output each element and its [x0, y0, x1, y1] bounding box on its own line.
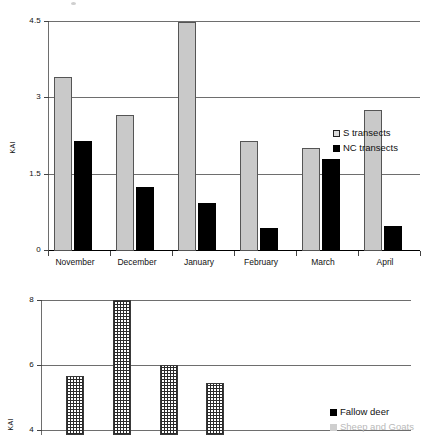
black-square-icon — [330, 409, 337, 416]
y-tick-6 — [37, 365, 42, 366]
bar-december-nc-transects — [136, 187, 154, 251]
gridline-3 — [48, 97, 420, 98]
y-tick-3 — [44, 97, 49, 98]
top-chart-y-axis — [48, 21, 49, 251]
bar-group-1-sheep-and-goats — [66, 376, 84, 435]
legend-label-fallow-deer: Fallow deer — [340, 407, 389, 417]
legend-item-s-transects: S transects — [333, 128, 398, 138]
bar-november-nc-transects — [74, 141, 92, 251]
y-tick-label-6: 6 — [10, 361, 34, 369]
y-tick-label-0: 0 — [14, 246, 41, 254]
scan-artifact-speck — [71, 2, 76, 5]
bar-group-3-sheep-and-goats — [160, 365, 178, 435]
legend-label-nc-transects: NC transects — [343, 143, 398, 153]
legend-item-fallow-deer: Fallow deer — [330, 407, 414, 417]
bar-february-s-transects — [240, 141, 258, 251]
top-chart-y-axis-title: KAI — [9, 134, 16, 154]
bar-march-nc-transects — [322, 159, 340, 251]
y-tick-4-5 — [44, 21, 49, 22]
y-tick-label-4: 4 — [10, 426, 34, 434]
top-chart-legend: S transects NC transects — [333, 128, 398, 158]
bar-november-s-transects — [54, 77, 72, 251]
hatched-square-icon — [330, 424, 337, 431]
x-label-december: December — [104, 258, 170, 267]
bottom-chart-y-axis — [41, 300, 42, 435]
x-label-november: November — [42, 258, 108, 267]
bar-march-s-transects — [302, 148, 320, 251]
bar-january-s-transects — [178, 22, 196, 251]
x-tick-sep-6 — [420, 251, 421, 256]
bottom-chart: KAI 8 6 4 Fallow deer Sheep and Goats — [0, 285, 433, 435]
black-square-icon — [333, 145, 340, 152]
y-tick-label-4-5: 4.5 — [14, 17, 41, 25]
x-label-april: April — [352, 258, 418, 267]
x-tick-sep-0 — [48, 251, 49, 256]
bar-group-4-sheep-and-goats — [206, 383, 224, 435]
bar-april-nc-transects — [384, 226, 402, 251]
bar-february-nc-transects — [260, 228, 278, 251]
bottom-chart-legend: Fallow deer Sheep and Goats — [330, 407, 414, 435]
x-tick-sep-4 — [296, 251, 297, 256]
legend-item-nc-transects: NC transects — [333, 143, 398, 153]
x-tick-sep-1 — [110, 251, 111, 256]
gridline-8 — [41, 300, 411, 301]
gridline-6 — [41, 365, 411, 366]
legend-label-sheep-and-goats: Sheep and Goats — [340, 422, 414, 432]
x-tick-sep-2 — [172, 251, 173, 256]
top-chart: KAI 0 1.5 3 4.5 November December Januar… — [0, 0, 433, 285]
legend-item-sheep-and-goats: Sheep and Goats — [330, 422, 414, 432]
x-label-march: March — [290, 258, 356, 267]
y-tick-label-8: 8 — [10, 296, 34, 304]
light-square-icon — [333, 130, 340, 137]
y-tick-label-1-5: 1.5 — [14, 170, 41, 178]
y-tick-8 — [37, 300, 42, 301]
bar-group-2-sheep-and-goats — [113, 300, 131, 435]
y-tick-4 — [37, 430, 42, 431]
gridline-4-5 — [48, 21, 420, 22]
legend-label-s-transects: S transects — [343, 128, 391, 138]
x-tick-sep-5 — [358, 251, 359, 256]
bar-december-s-transects — [116, 115, 134, 251]
x-tick-sep-3 — [234, 251, 235, 256]
y-tick-label-3: 3 — [14, 93, 41, 101]
bar-january-nc-transects — [198, 203, 216, 251]
x-label-january: January — [166, 258, 232, 267]
y-tick-1-5 — [44, 174, 49, 175]
x-label-february: February — [228, 258, 294, 267]
